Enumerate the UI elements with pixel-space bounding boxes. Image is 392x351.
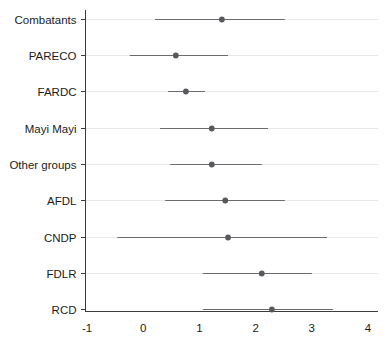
x-tick-label-1: 1 — [196, 322, 202, 334]
point-estimate-marker — [222, 198, 228, 204]
gridlines-layer — [86, 20, 379, 274]
x-tick-label-neg1: -1 — [82, 322, 92, 334]
y-tick-label-combatants: Combatants — [14, 14, 76, 26]
forest-plot-canvas: CombatantsPARECOFARDCMayi MayiOther grou… — [0, 0, 392, 351]
point-estimate-marker — [259, 271, 265, 277]
y-tick-label-afdl: AFDL — [47, 195, 77, 207]
x-tick-label-0: 0 — [140, 322, 146, 334]
plot-area: CombatantsPARECOFARDCMayi MayiOther grou… — [0, 0, 392, 351]
y-tick-label-mayi-mayi: Mayi Mayi — [25, 123, 77, 135]
y-tick-label-rcd: RCD — [52, 304, 77, 316]
x-tick-label-3: 3 — [309, 322, 315, 334]
y-tick-label-cndp: CNDP — [44, 232, 77, 244]
point-estimate-marker — [173, 53, 179, 59]
x-tick-label-2: 2 — [252, 322, 258, 334]
y-tick-label-fdlr: FDLR — [46, 268, 76, 280]
point-estimate-marker — [269, 307, 275, 313]
point-estimate-marker — [183, 89, 189, 95]
y-axis — [81, 10, 86, 312]
x-tick-labels: -101234 — [82, 322, 372, 334]
forest-plot-figure: CombatantsPARECOFARDCMayi MayiOther grou… — [0, 0, 392, 351]
y-tick-label-fardc: FARDC — [38, 86, 77, 98]
y-tick-label-pareco: PARECO — [29, 50, 77, 62]
point-estimate-marker — [225, 235, 231, 241]
point-estimate-marker — [209, 162, 215, 168]
x-tick-label-4: 4 — [365, 322, 372, 334]
y-tick-label-other-groups: Other groups — [9, 159, 76, 171]
y-tick-labels: CombatantsPARECOFARDCMayi MayiOther grou… — [9, 14, 77, 316]
point-estimate-marker — [219, 17, 225, 23]
point-estimate-marker — [209, 126, 215, 132]
